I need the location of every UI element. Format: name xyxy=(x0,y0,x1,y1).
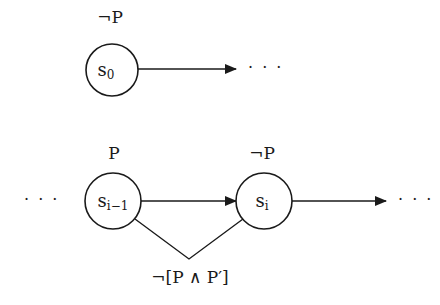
node-subscript-s0: 0 xyxy=(107,68,115,82)
state-node-s-i: si xyxy=(236,173,292,229)
annotation-s-i: ¬P xyxy=(249,143,275,163)
annotation-s0: ¬P xyxy=(97,7,123,27)
annotation-s-i-minus-1: P xyxy=(108,143,119,163)
ellipsis-bottom-trailing: · · · xyxy=(398,190,433,209)
state-node-s-i-minus-1: si−1 xyxy=(85,173,141,229)
node-label-s-i-minus-1: s xyxy=(98,190,107,211)
constraint-connector xyxy=(135,219,243,259)
node-subscript-s-i: i xyxy=(265,199,269,213)
node-label-s-i: s xyxy=(255,190,264,211)
ellipsis-top-trailing: · · · xyxy=(248,58,283,77)
constraint-label: ¬[P ∧ P′] xyxy=(151,267,229,287)
state-sequence-diagram: ¬P s0 · · · · · · P si−1 ¬P si · · · ¬[P… xyxy=(0,0,440,305)
node-subscript-s-i-minus-1: i−1 xyxy=(107,199,129,213)
state-node-s0: s0 xyxy=(86,44,138,96)
node-label-s0: s xyxy=(98,59,107,80)
ellipsis-bottom-leading: · · · xyxy=(24,190,59,209)
